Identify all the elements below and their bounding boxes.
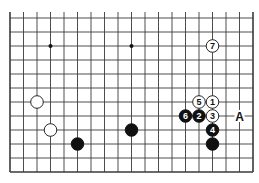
white-stone bbox=[31, 96, 44, 109]
black-stone bbox=[71, 138, 84, 151]
white-stone bbox=[44, 124, 57, 137]
black-stone-4: 4 bbox=[206, 124, 219, 137]
black-stone bbox=[206, 138, 219, 151]
white-stone-5: 5 bbox=[193, 96, 206, 109]
move-number: 5 bbox=[196, 97, 201, 107]
move-number: 3 bbox=[210, 111, 215, 121]
black-stone-2: 2 bbox=[193, 110, 206, 123]
star-point-icon bbox=[130, 44, 134, 48]
white-stone-1: 1 bbox=[206, 96, 219, 109]
marks: A bbox=[235, 110, 245, 124]
stones: 7123456 bbox=[31, 40, 219, 151]
move-number: 2 bbox=[196, 111, 201, 121]
black-stone-6: 6 bbox=[179, 110, 192, 123]
move-number: 7 bbox=[210, 41, 215, 51]
go-board: 7123456 A bbox=[0, 0, 259, 183]
move-number: 6 bbox=[183, 111, 188, 121]
point-label-a: A bbox=[235, 110, 244, 124]
black-stone bbox=[125, 124, 138, 137]
star-point-icon bbox=[49, 44, 53, 48]
move-number: 1 bbox=[210, 97, 215, 107]
white-stone-3: 3 bbox=[206, 110, 219, 123]
move-number: 4 bbox=[210, 125, 215, 135]
white-stone-7: 7 bbox=[206, 40, 219, 53]
